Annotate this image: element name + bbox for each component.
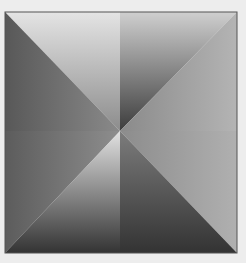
shaded-triangles-figure xyxy=(0,0,246,263)
